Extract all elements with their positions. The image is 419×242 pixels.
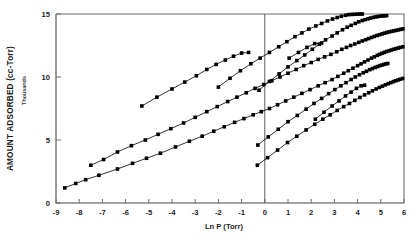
data-point-marker [169, 127, 173, 131]
data-point-marker [116, 167, 120, 171]
series-isotherm-7 [256, 77, 405, 167]
data-point-marker [316, 58, 320, 62]
y-tick-label-10: 10 [42, 73, 50, 82]
data-point-marker [102, 158, 106, 162]
x-tick-label-4: 4 [355, 208, 360, 217]
data-point-marker [347, 13, 351, 17]
data-point-marker [297, 51, 301, 55]
plot-axis-lines [56, 14, 404, 203]
data-point-marker [257, 88, 261, 92]
data-point-marker [294, 68, 298, 72]
data-point-marker [285, 40, 289, 44]
data-point-marker [307, 27, 311, 31]
data-point-marker [277, 45, 281, 49]
data-point-marker [266, 156, 270, 160]
data-point-marker [84, 178, 88, 182]
data-point-marker [309, 61, 313, 65]
x-tick-label--5: -5 [145, 208, 153, 217]
data-point-marker [277, 72, 281, 76]
data-point-marker [385, 14, 389, 18]
data-point-marker [268, 51, 272, 55]
data-point-marker [313, 122, 317, 126]
data-point-marker [258, 56, 262, 60]
data-point-marker [316, 84, 320, 88]
data-point-marker [361, 71, 365, 75]
data-point-marker [195, 74, 199, 78]
data-point-marker [320, 22, 324, 26]
data-point-marker [342, 71, 346, 75]
data-point-marker [401, 27, 405, 31]
series-line [91, 29, 403, 165]
axes-group [56, 14, 404, 203]
data-point-marker [304, 107, 308, 111]
data-point-marker [295, 59, 299, 63]
data-point-marker [228, 76, 232, 80]
data-point-marker [359, 62, 363, 66]
data-point-marker [323, 55, 327, 59]
data-point-marker [356, 64, 360, 68]
data-point-marker [159, 151, 163, 155]
data-point-marker [330, 104, 334, 108]
data-point-marker [344, 94, 348, 98]
data-point-marker [155, 95, 159, 99]
data-point-marker [156, 133, 160, 137]
data-point-marker [335, 16, 339, 20]
data-point-marker [314, 24, 318, 28]
data-point-marker [226, 100, 230, 104]
data-point-marker [293, 35, 297, 39]
data-point-marker [63, 186, 67, 190]
data-point-marker [331, 17, 335, 21]
plot-frame-lines [56, 14, 404, 203]
data-point-marker [300, 92, 304, 96]
data-point-marker [371, 89, 375, 93]
data-point-marker [365, 70, 369, 74]
data-point-marker [145, 156, 149, 160]
data-point-marker [367, 91, 371, 95]
data-point-marker [330, 34, 334, 38]
data-point-marker [268, 80, 272, 84]
series-isotherm-2 [89, 27, 405, 167]
data-point-marker [253, 87, 257, 91]
data-point-marker [366, 58, 370, 62]
data-point-marker [335, 109, 339, 113]
data-point-marker [217, 85, 221, 89]
data-point-marker [286, 141, 290, 145]
data-point-marker [97, 173, 101, 177]
chart-figure: -9-8-7-6-5-4-3-2-10123456051015Ln P (Tor… [0, 0, 419, 242]
data-point-marker [363, 60, 367, 64]
series-line [259, 16, 387, 91]
data-point-marker [329, 53, 333, 57]
data-point-marker [347, 69, 351, 73]
data-point-marker [360, 12, 364, 16]
data-point-marker [355, 87, 359, 91]
data-point-marker [144, 138, 148, 142]
data-point-marker [311, 47, 315, 51]
axis-labels-group: -9-8-7-6-5-4-3-2-10123456051015Ln P (Tor… [6, 10, 406, 231]
data-point-marker [249, 62, 253, 66]
data-point-marker [324, 38, 328, 42]
data-point-marker [340, 14, 344, 18]
data-point-marker [327, 92, 331, 96]
data-point-marker [193, 116, 197, 120]
data-point-marker [303, 53, 307, 57]
data-point-marker [321, 117, 325, 121]
data-point-marker [188, 139, 192, 143]
data-point-marker [292, 95, 296, 99]
data-point-marker [266, 135, 270, 139]
data-point-marker [235, 95, 239, 99]
data-point-marker [340, 47, 344, 51]
x-tick-label--6: -6 [122, 208, 129, 217]
data-point-marker [336, 75, 340, 79]
data-point-marker [260, 110, 264, 114]
data-point-marker [358, 73, 362, 77]
data-point-marker [130, 144, 134, 148]
chart-svg: -9-8-7-6-5-4-3-2-10123456051015Ln P (Tor… [0, 0, 419, 242]
x-tick-label-2: 2 [309, 208, 313, 217]
series-line [257, 79, 402, 166]
data-point-marker [212, 129, 216, 133]
data-point-marker [89, 163, 93, 167]
data-point-marker [286, 71, 290, 75]
data-point-marker [349, 24, 353, 28]
data-point-marker [256, 143, 260, 147]
data-point-marker [358, 96, 362, 100]
